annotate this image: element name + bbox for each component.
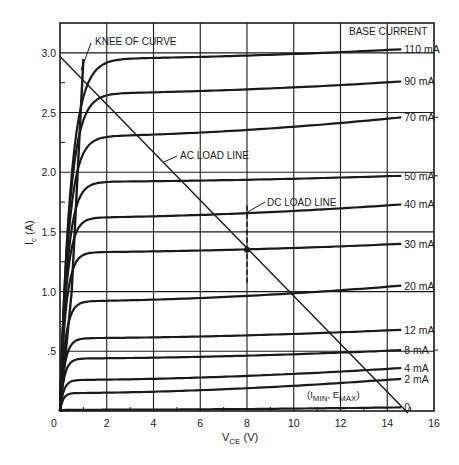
base-current-label: 50 mA — [404, 170, 434, 182]
ac-load-line-label: AC LOAD LINE — [180, 150, 249, 161]
y-tick-label: 1.5 — [41, 226, 56, 238]
x-tick-label: 2 — [104, 417, 110, 429]
base-current-title: BASE CURRENT — [349, 26, 427, 37]
x-axis-label: VCE (V) — [222, 431, 258, 446]
knee-pointer — [81, 43, 91, 70]
dc-load-pointer — [246, 202, 265, 213]
base-current-label: 70 mA — [404, 111, 434, 123]
x-tick-label: 16 — [428, 417, 440, 429]
x-tick-label: 6 — [197, 417, 203, 429]
base-current-label: 90 mA — [404, 75, 434, 87]
knee-of-curve-label: KNEE OF CURVE — [95, 36, 177, 47]
dc-load-line-label: DC LOAD LINE — [267, 197, 337, 208]
x-tick-label: 14 — [381, 417, 393, 429]
base-current-label: 30 mA — [404, 238, 434, 250]
y-tick-label: 3.0 — [41, 47, 56, 59]
ac-load-line — [60, 56, 408, 413]
load-lines — [60, 56, 408, 413]
collector-curve — [60, 117, 401, 411]
y-tick-label: 2.5 — [41, 107, 56, 119]
base-current-label: 2 mA — [404, 373, 429, 385]
x-tick-label: 4 — [151, 417, 157, 429]
ac-load-pointer — [164, 156, 177, 162]
base-current-label: 12 mA — [404, 324, 434, 336]
y-tick-label: 1.0 — [41, 286, 56, 298]
x-tick-label: 12 — [335, 417, 347, 429]
x-tick-label: 8 — [244, 417, 250, 429]
y-tick-label: 2.0 — [41, 166, 56, 178]
y-axis-label: Ic (A) — [23, 220, 38, 245]
x-tick-label: 10 — [288, 417, 300, 429]
axis-ticks — [60, 83, 438, 411]
x-tick-label: 0 — [51, 417, 57, 429]
base-current-label: 8 mA — [404, 344, 429, 356]
transistor-characteristic-chart: 0246810121416.51.01.52.02.53.0 110 mA90 … — [0, 0, 459, 465]
collector-curves — [60, 49, 401, 411]
q-point — [244, 247, 250, 253]
y-tick-label: .5 — [47, 345, 56, 357]
base-current-label: 20 mA — [404, 280, 434, 292]
collector-curve — [60, 244, 401, 411]
base-current-label: 40 mA — [404, 198, 434, 210]
imin-emax-label: (IMIN, EMAX) — [307, 389, 360, 403]
tick-labels: 0246810121416.51.01.52.02.53.0 — [41, 47, 440, 429]
